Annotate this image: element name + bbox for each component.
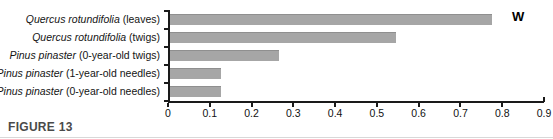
bar-4 — [170, 86, 221, 97]
x-axis-tick-label-7: 0.7 — [453, 107, 468, 119]
category-species-4: Pinus pinaster — [0, 85, 63, 97]
x-axis-tick-label-8: 0.8 — [495, 107, 510, 119]
y-axis-tick-2 — [164, 46, 169, 48]
x-axis-tick-label-4: 0.4 — [328, 107, 343, 119]
x-axis-tick-label-1: 0.1 — [202, 107, 217, 119]
category-species-2: Pinus pinaster — [9, 49, 76, 61]
x-axis-tick-label-5: 0.5 — [370, 107, 385, 119]
category-part-2: (0-year-old twigs) — [76, 49, 160, 61]
x-axis-line — [168, 101, 544, 103]
figure-13-container: Quercus rotundifolia (leaves) Quercus ro… — [0, 0, 553, 139]
category-part-3: (1-year-old needles) — [63, 67, 160, 79]
y-axis-tick-1 — [164, 28, 169, 30]
bar-2 — [170, 50, 279, 61]
bar-1 — [170, 32, 396, 43]
category-label-2: Pinus pinaster (0-year-old twigs) — [9, 46, 160, 64]
category-label-4: Pinus pinaster (0-year-old needles) — [0, 82, 160, 100]
x-axis-tick-9 — [543, 97, 545, 102]
category-label-3: Pinus pinaster (1-year-old needles) — [0, 64, 160, 82]
category-species-1: Quercus rotundifolia — [32, 31, 126, 43]
category-part-0: (leaves) — [120, 13, 160, 25]
y-axis-tick-3 — [164, 64, 169, 66]
bar-3 — [170, 68, 221, 79]
y-axis-tick-4 — [164, 82, 169, 84]
bar-0 — [170, 14, 492, 25]
caption-divider — [0, 137, 553, 138]
x-axis-tick-label-0: 0 — [165, 107, 171, 119]
x-axis-tick-label-2: 0.2 — [244, 107, 259, 119]
x-axis-tick-label-6: 0.6 — [411, 107, 426, 119]
category-axis-labels: Quercus rotundifolia (leaves) Quercus ro… — [0, 10, 164, 100]
figure-caption: FIGURE 13 — [8, 120, 73, 134]
category-part-4: (0-year-old needles) — [63, 85, 160, 97]
x-axis-tick-label-9: 0.9 — [537, 107, 552, 119]
category-label-1: Quercus rotundifolia (twigs) — [32, 28, 160, 46]
category-species-3: Pinus pinaster — [0, 67, 63, 79]
panel-annotation-w: W — [512, 9, 524, 24]
y-axis-tick-0 — [164, 10, 169, 12]
plot-area — [168, 10, 544, 102]
x-axis-tick-label-3: 0.3 — [286, 107, 301, 119]
category-species-0: Quercus rotundifolia — [26, 13, 120, 25]
category-part-1: (twigs) — [126, 31, 160, 43]
category-label-0: Quercus rotundifolia (leaves) — [26, 10, 160, 28]
